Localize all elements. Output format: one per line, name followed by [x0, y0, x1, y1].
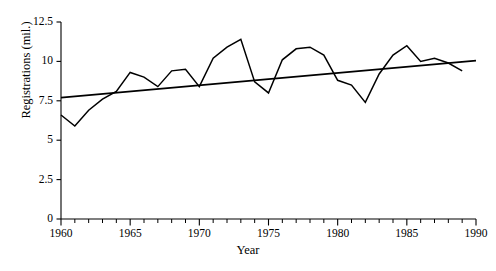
x-axis-major-ticks — [61, 219, 476, 226]
x-tick-label: 1990 — [454, 228, 496, 240]
y-tick-label: 0 — [13, 213, 53, 225]
x-tick-label: 1975 — [247, 228, 291, 240]
x-tick-label: 1960 — [39, 228, 83, 240]
axis-lines — [61, 22, 476, 219]
x-tick-label: 1985 — [385, 228, 429, 240]
y-axis-title-wrap: Registrations (mil.) — [16, 0, 36, 140]
x-tick-label: 1980 — [316, 228, 360, 240]
data-series-line — [61, 39, 462, 126]
x-tick-label: 1970 — [177, 228, 221, 240]
y-axis-ticks — [57, 22, 62, 219]
x-tick-label: 1965 — [108, 228, 152, 240]
y-axis-title: Registrations (mil.) — [19, 21, 33, 118]
chart-figure: 02.557.51012.5 1960196519701975198019851… — [0, 0, 496, 271]
y-tick-label: 2.5 — [13, 174, 53, 186]
x-axis-title: Year — [0, 243, 496, 258]
